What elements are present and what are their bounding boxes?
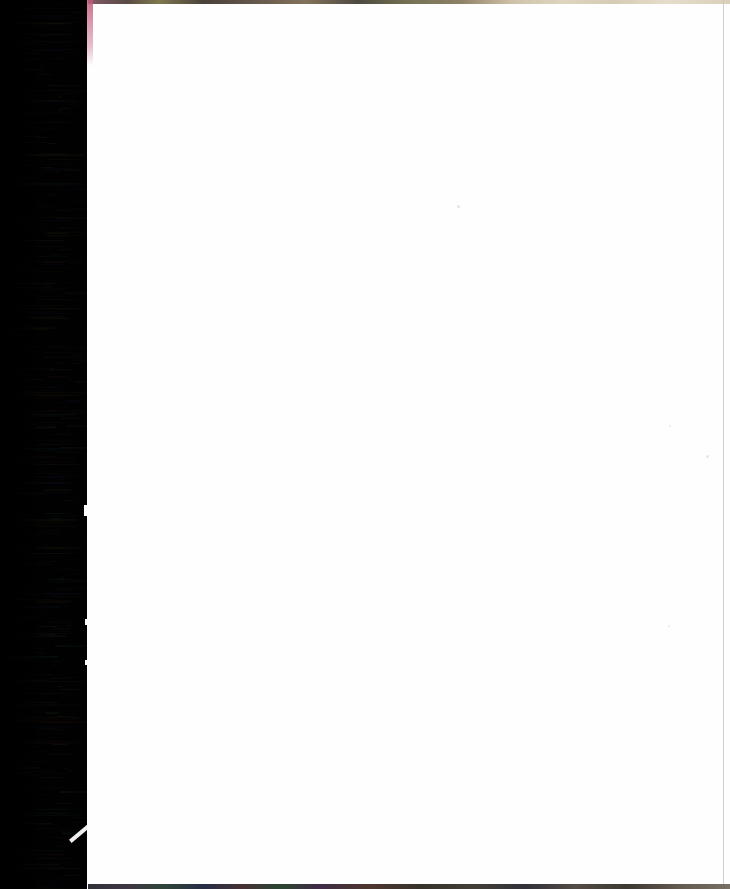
page-edge-notch-middle <box>85 619 88 625</box>
dust-speck <box>457 205 460 208</box>
dust-speck <box>668 625 670 627</box>
scanner-edge-shadow <box>0 0 88 889</box>
page-edge-notch-upper <box>84 505 88 516</box>
page-surface <box>87 0 730 889</box>
scan-viewport <box>0 0 730 889</box>
dust-speck <box>706 455 709 458</box>
dust-speck <box>669 425 671 427</box>
scanned-page <box>87 0 730 889</box>
bottom-edge-noise-strip <box>88 884 730 889</box>
page-right-edge-rule <box>723 0 724 889</box>
page-edge-notch-lower <box>85 660 88 665</box>
top-edge-noise-strip <box>88 0 730 4</box>
pink-corner-streak <box>87 0 93 66</box>
